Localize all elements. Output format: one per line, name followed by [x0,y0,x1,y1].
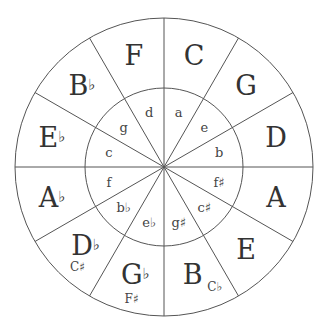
minor-key-label: e♭ [142,215,156,230]
enharmonic-label: C♭ [207,280,222,294]
key-labels: CaGeDbAf♯Ec♯BC♭g♯G♭F♯e♭D♭C♯b♭A♭fE♭cB♭gFd [38,39,287,306]
minor-key-label: c [105,145,112,160]
major-key-label: D♭ [71,230,100,261]
minor-key-label: c♯ [198,200,212,215]
circle-of-fifths: CaGeDbAf♯Ec♯BC♭g♯G♭F♯e♭D♭C♯b♭A♭fE♭cB♭gFd [0,0,321,333]
major-key-label: C [184,39,205,70]
minor-key-label: f [107,174,113,189]
enharmonic-label: C♯ [70,260,85,274]
major-key-label: G [235,69,257,100]
major-key-label: D [265,121,287,152]
enharmonic-label: F♯ [125,292,139,306]
minor-key-label: b [215,145,223,160]
minor-key-label: d [145,104,153,119]
major-key-label: A♭ [38,182,66,213]
sector-dividers [15,18,313,316]
major-key-label: B [183,259,203,290]
minor-key-label: a [175,104,183,119]
major-key-label: A [265,182,286,213]
major-key-label: E [236,234,256,265]
minor-key-label: g [120,119,128,134]
major-key-label: B♭ [69,69,96,100]
minor-key-label: e [200,119,208,134]
minor-key-label: b♭ [116,200,130,215]
minor-key-label: g♯ [171,215,186,230]
minor-key-label: f♯ [214,174,225,189]
major-key-label: E♭ [39,121,66,152]
major-key-label: F [125,39,144,70]
major-key-label: G♭ [121,259,150,290]
